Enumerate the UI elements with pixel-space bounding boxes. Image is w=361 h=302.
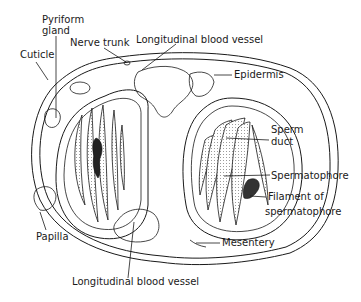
right-filament xyxy=(243,179,259,199)
leader-long-top xyxy=(142,44,176,70)
label-pyriform-1: Pyriform xyxy=(42,14,84,25)
label-spermatophore: Spermatophore xyxy=(271,170,349,181)
epidermis-outline xyxy=(40,59,330,258)
label-sperm-duct-1: Sperm xyxy=(271,124,304,135)
leader-nerve xyxy=(104,48,126,62)
label-filament-2: spermatophore xyxy=(265,206,341,217)
label-epidermis: Epidermis xyxy=(234,69,284,80)
left-spermatophore xyxy=(112,110,118,210)
body-cross-section-diagram: Pyriform gland Cuticle Nerve trunk Longi… xyxy=(0,0,361,302)
label-longitudinal-vessel-top: Longitudinal blood vessel xyxy=(136,34,263,45)
dorsal-tissue xyxy=(134,66,192,117)
leader-cuticle xyxy=(36,62,48,80)
leader-filament xyxy=(250,196,266,197)
label-longitudinal-vessel-bottom: Longitudinal blood vessel xyxy=(72,276,199,287)
left-spermatophore xyxy=(99,105,108,220)
left-spermatophore xyxy=(120,125,124,190)
leader-papilla xyxy=(40,212,46,230)
label-nerve-trunk: Nerve trunk xyxy=(70,37,130,48)
label-sperm-duct-2: duct xyxy=(271,136,293,147)
label-papilla: Papilla xyxy=(36,231,69,242)
label-filament-1: Filament of xyxy=(268,191,324,202)
left-spermatophore xyxy=(75,115,85,205)
label-cuticle: Cuticle xyxy=(20,49,54,60)
gland-oval xyxy=(70,82,90,94)
leader-long-bottom xyxy=(128,222,134,278)
label-pyriform-2: gland xyxy=(42,25,70,36)
mesentery-line xyxy=(190,240,206,247)
label-mesentery: Mesentery xyxy=(222,237,275,248)
